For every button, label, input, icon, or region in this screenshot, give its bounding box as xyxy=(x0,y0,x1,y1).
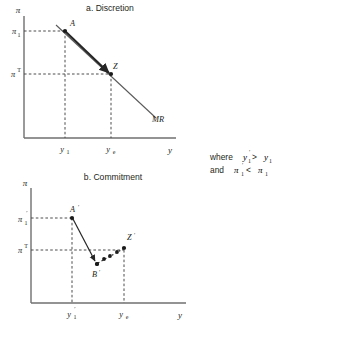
panel-a-xtick-ye: y e xyxy=(105,145,116,155)
panel-a-xtick-ye-base: y xyxy=(105,145,110,154)
panel-b-ytick-pi1-prime: π 1 ′ xyxy=(18,210,28,226)
panel-b-point-B-prime-label: B ′ xyxy=(92,269,101,279)
panel-a: a. Discretion π y π 1 π T y 1 y e xyxy=(11,3,176,155)
panel-a-ytick-pi1: π 1 xyxy=(12,27,21,38)
note-line-2-lhs-sub: 1 xyxy=(241,171,244,177)
panel-b-point-B-prime-mark: ′ xyxy=(99,269,101,275)
panel-b-xtick-ye: y e xyxy=(118,310,129,320)
panel-b-point-A-prime xyxy=(70,216,74,220)
note-line-1: where y 1 ′ > y 1 xyxy=(209,149,272,164)
note-line-2-prefix: and xyxy=(210,165,224,175)
note-line-2-lhs-base: π xyxy=(234,165,239,175)
panel-b-point-A-prime-mark: ′ xyxy=(78,204,80,210)
panel-b-ytick-pi1p-base: π xyxy=(18,215,23,224)
panel-b-xtick-ye-base: y xyxy=(118,310,123,319)
panel-b-point-Z-prime-mark: ′ xyxy=(134,232,136,238)
panel-b-dotted-path xyxy=(95,249,123,266)
panel-a-ytick-pi1-sub: 1 xyxy=(18,32,21,38)
panel-a-ytick-pi1-base: π xyxy=(12,27,17,36)
panel-a-y-axis-label: π xyxy=(16,5,21,15)
panel-b-title: b. Commitment xyxy=(84,172,143,182)
note-line-2-lhs-prime: ′ xyxy=(242,162,244,168)
note-line-1-rhs-sub: 1 xyxy=(269,158,272,164)
note-line-1-relation: > xyxy=(252,152,257,162)
panel-a-mr-label: MR xyxy=(151,115,164,124)
panel-a-x-axis-label: y xyxy=(167,145,172,155)
panel-a-point-A xyxy=(63,29,67,33)
panel-a-ytick-piT-sup: T xyxy=(17,67,21,73)
panel-b-ytick-pi1p-prime: ′ xyxy=(26,210,28,216)
panel-b-x-axis-label: y xyxy=(177,310,182,320)
panel-b-point-Z-prime-base: Z xyxy=(127,233,132,242)
figure-note: where y 1 ′ > y 1 and π 1 ′ < π 1 xyxy=(209,149,272,177)
panel-b-ytick-pi1p-sub: 1 xyxy=(25,220,28,226)
panel-b-xtick-ye-sub: e xyxy=(126,314,129,320)
panel-a-xtick-y1-sub: 1 xyxy=(67,149,70,155)
panel-a-ytick-piT-base: π xyxy=(11,70,16,79)
panel-b-xtick-y1p-prime: ′ xyxy=(74,306,76,312)
note-line-2: and π 1 ′ < π 1 xyxy=(210,162,268,177)
panel-a-xtick-y1-base: y xyxy=(59,145,64,154)
panel-b-xtick-y1-prime: y 1 ′ xyxy=(66,306,76,320)
panel-b-y-axis-label: π xyxy=(23,178,28,188)
panel-b-point-B-prime xyxy=(95,262,99,266)
note-line-2-rhs-base: π xyxy=(258,165,263,175)
panel-a-point-Z xyxy=(109,72,113,76)
panel-b-xtick-y1p-sub: 1 xyxy=(74,314,77,320)
panel-b-ytick-piT-base: π xyxy=(18,246,23,255)
panel-a-xtick-y1: y 1 xyxy=(59,145,69,155)
panel-b-point-Z-prime-label: Z ′ xyxy=(127,232,136,242)
panel-b-arrow-ap-to-bp xyxy=(73,219,95,261)
panel-a-title: a. Discretion xyxy=(86,3,134,13)
note-line-1-lhs-base: y xyxy=(242,152,247,162)
panel-b-point-A-prime-label: A ′ xyxy=(69,204,80,214)
panel-a-arrow-a-to-z xyxy=(66,32,109,73)
panel-b-ytick-piT-sup: T xyxy=(24,243,28,249)
panel-a-point-Z-label: Z xyxy=(113,62,118,71)
panel-b-point-B-prime-base: B xyxy=(92,270,97,279)
note-line-1-lhs-prime: ′ xyxy=(249,149,251,155)
panel-a-xtick-ye-sub: e xyxy=(113,149,116,155)
note-line-1-prefix: where xyxy=(209,152,233,162)
economics-figure: a. Discretion π y π 1 π T y 1 y e xyxy=(0,0,337,339)
panel-b: b. Commitment π y π 1 ′ π T y 1 ′ y e xyxy=(18,172,186,320)
panel-b-ytick-piT: π T xyxy=(18,243,28,255)
panel-a-point-A-label: A xyxy=(69,19,76,28)
panel-b-xtick-y1p-base: y xyxy=(66,310,71,319)
panel-b-point-A-prime-base: A xyxy=(69,205,76,214)
panel-b-point-Z-prime xyxy=(122,246,126,250)
note-line-1-rhs-base: y xyxy=(263,152,268,162)
panel-a-ytick-piT: π T xyxy=(11,67,21,79)
note-line-2-relation: < xyxy=(246,165,251,175)
note-line-1-lhs-sub: 1 xyxy=(248,158,251,164)
note-line-2-rhs-sub: 1 xyxy=(265,171,268,177)
